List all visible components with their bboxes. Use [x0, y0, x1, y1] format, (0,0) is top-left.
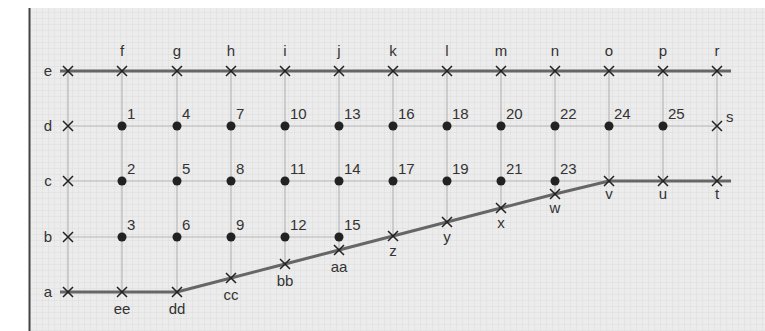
interior-node-label: 8 — [236, 160, 244, 177]
boundary-label: bb — [277, 272, 294, 289]
interior-node-dot-icon — [335, 177, 344, 186]
column-label: o — [605, 42, 613, 59]
boundary-label: x — [497, 214, 505, 231]
column-label: p — [659, 42, 667, 59]
boundary-label: ee — [114, 300, 131, 317]
interior-node-dot-icon — [659, 122, 668, 131]
column-label: g — [173, 42, 181, 59]
row-label: c — [44, 172, 52, 189]
interior-node-dot-icon — [389, 177, 398, 186]
boundary-label: v — [605, 185, 613, 202]
interior-node-dot-icon — [227, 233, 236, 242]
interior-node-label: 19 — [452, 160, 469, 177]
interior-node-dot-icon — [173, 122, 182, 131]
row-label: e — [44, 62, 52, 79]
boundary-label: y — [443, 228, 451, 245]
interior-node-label: 15 — [344, 216, 361, 233]
interior-node-dot-icon — [335, 233, 344, 242]
boundary-label: z — [389, 242, 397, 259]
interior-node-label: 18 — [452, 105, 469, 122]
column-label: r — [715, 42, 720, 59]
row-label: d — [44, 117, 52, 134]
interior-node-label: 11 — [290, 160, 306, 177]
diagram-background — [29, 8, 765, 331]
interior-node-dot-icon — [281, 177, 290, 186]
interior-node-label: 1 — [127, 105, 135, 122]
interior-node-label: 13 — [344, 105, 361, 122]
column-label: k — [389, 42, 397, 59]
interior-node-dot-icon — [497, 177, 506, 186]
grid-mesh-diagram: fghijklmnopredcbastuvwxyzaabbccddee12345… — [0, 0, 765, 331]
boundary-label: dd — [169, 300, 186, 317]
interior-node-label: 20 — [506, 105, 523, 122]
interior-node-dot-icon — [173, 233, 182, 242]
interior-node-label: 23 — [560, 160, 577, 177]
boundary-label: s — [726, 108, 734, 125]
interior-node-label: 6 — [182, 216, 190, 233]
interior-node-dot-icon — [551, 122, 560, 131]
interior-node-label: 7 — [236, 105, 244, 122]
boundary-label: cc — [224, 286, 240, 303]
interior-node-dot-icon — [227, 122, 236, 131]
interior-node-label: 17 — [398, 160, 415, 177]
interior-node-dot-icon — [173, 177, 182, 186]
boundary-label: u — [659, 185, 667, 202]
interior-node-dot-icon — [118, 177, 127, 186]
interior-node-dot-icon — [118, 233, 127, 242]
interior-node-label: 5 — [182, 160, 190, 177]
column-label: h — [227, 42, 235, 59]
interior-node-dot-icon — [281, 122, 290, 131]
row-label: b — [44, 228, 52, 245]
interior-node-dot-icon — [227, 177, 236, 186]
interior-node-label: 10 — [290, 105, 307, 122]
interior-node-dot-icon — [497, 122, 506, 131]
column-label: j — [336, 42, 340, 59]
interior-node-label: 22 — [560, 105, 577, 122]
interior-node-label: 21 — [506, 160, 523, 177]
column-label: m — [495, 42, 508, 59]
interior-node-label: 12 — [290, 216, 307, 233]
interior-node-label: 3 — [127, 216, 135, 233]
interior-node-dot-icon — [281, 233, 290, 242]
interior-node-label: 16 — [398, 105, 415, 122]
interior-node-label: 25 — [668, 105, 685, 122]
interior-node-dot-icon — [335, 122, 344, 131]
column-label: l — [445, 42, 448, 59]
interior-node-dot-icon — [443, 122, 452, 131]
interior-node-label: 2 — [127, 160, 135, 177]
interior-node-dot-icon — [389, 122, 398, 131]
interior-node-label: 4 — [182, 105, 190, 122]
column-label: i — [283, 42, 286, 59]
interior-node-label: 14 — [344, 160, 361, 177]
boundary-label: aa — [331, 258, 348, 275]
interior-node-dot-icon — [605, 122, 614, 131]
row-label: a — [44, 283, 53, 300]
interior-node-dot-icon — [118, 122, 127, 131]
interior-node-label: 24 — [614, 105, 631, 122]
boundary-label: w — [549, 199, 561, 216]
interior-node-label: 9 — [236, 216, 244, 233]
interior-node-dot-icon — [551, 177, 560, 186]
interior-node-dot-icon — [443, 177, 452, 186]
column-label: n — [551, 42, 559, 59]
